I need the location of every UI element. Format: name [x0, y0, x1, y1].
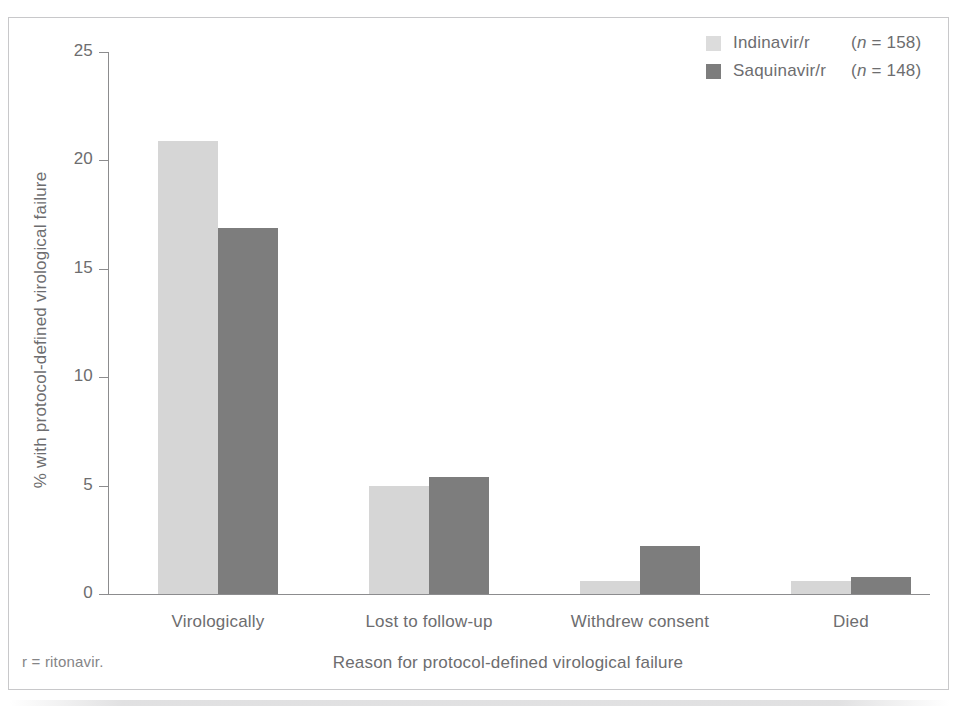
y-axis-tick: [99, 160, 108, 161]
legend-sample-size: (n = 158): [851, 33, 921, 53]
y-axis-tick-label: 15: [55, 258, 93, 278]
y-axis-line: [108, 52, 109, 595]
bar-saquinavir-r-lost-to-follow-up: [429, 477, 489, 594]
x-axis-title: Reason for protocol-defined virological …: [228, 653, 788, 673]
legend-item-indinavir-r: Indinavir/r(n = 158): [706, 29, 936, 57]
bar-indinavir-r-died: [791, 581, 851, 594]
legend-label: Indinavir/r: [733, 33, 851, 53]
legend-item-saquinavir-r: Saquinavir/r(n = 148): [706, 57, 936, 85]
x-axis-label-lost-to-follow-up: Lost to follow-up: [309, 612, 549, 632]
bar-saquinavir-r-died: [851, 577, 911, 594]
y-axis-tick-label: 5: [55, 475, 93, 495]
legend-label: Saquinavir/r: [733, 61, 851, 81]
y-axis-tick-label: 10: [55, 366, 93, 386]
legend-sample-size: (n = 148): [851, 61, 921, 81]
x-axis-label-withdrew-consent: Withdrew consent: [520, 612, 760, 632]
x-axis-label-virologically: Virologically: [98, 612, 338, 632]
chart-legend: Indinavir/r(n = 158)Saquinavir/r(n = 148…: [706, 29, 936, 85]
bar-chart: 0510152025 VirologicallyLost to follow-u…: [0, 0, 962, 707]
y-axis-tick: [99, 269, 108, 270]
y-axis-tick: [99, 377, 108, 378]
y-axis-tick-label: 25: [55, 41, 93, 61]
y-axis-tick-label: 20: [55, 149, 93, 169]
figure-page: 0510152025 VirologicallyLost to follow-u…: [0, 0, 962, 707]
y-axis-tick: [99, 594, 108, 595]
x-axis-label-died: Died: [731, 612, 962, 632]
bar-saquinavir-r-virologically: [218, 228, 278, 594]
y-axis-tick: [99, 486, 108, 487]
bar-saquinavir-r-withdrew-consent: [640, 546, 700, 594]
x-axis-line: [108, 594, 930, 595]
y-axis-tick-label: 0: [55, 583, 93, 603]
y-axis-tick: [99, 52, 108, 53]
bar-indinavir-r-lost-to-follow-up: [369, 486, 429, 594]
bottom-edge-sliver: [10, 700, 950, 706]
figure-footnote: r = ritonavir.: [22, 653, 104, 670]
legend-swatch-icon: [706, 36, 721, 51]
bar-indinavir-r-withdrew-consent: [580, 581, 640, 594]
bar-indinavir-r-virologically: [158, 141, 218, 594]
y-axis-title: % with protocol-defined virological fail…: [31, 110, 51, 550]
legend-swatch-icon: [706, 64, 721, 79]
